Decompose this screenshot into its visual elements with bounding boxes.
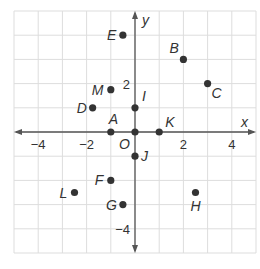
point-marker <box>119 32 126 39</box>
point-marker <box>107 128 114 135</box>
x-axis-arrow-left-icon <box>14 129 22 135</box>
point-label: B <box>169 40 178 56</box>
point-marker <box>131 104 138 111</box>
point-marker <box>156 128 163 135</box>
point-label: F <box>95 172 105 188</box>
point-l: L <box>60 185 79 201</box>
point-marker <box>204 80 211 87</box>
point-marker <box>71 189 78 196</box>
point-marker <box>192 189 199 196</box>
point-g: G <box>106 197 127 213</box>
point-marker <box>180 56 187 63</box>
x-tick-label: −2 <box>79 137 94 152</box>
y-tick-label: 2 <box>123 77 130 92</box>
y-tick-label: −4 <box>115 222 130 237</box>
point-label: K <box>165 114 175 130</box>
point-label: L <box>60 185 68 201</box>
x-tick-label: 4 <box>228 137 235 152</box>
point-j: J <box>131 148 149 164</box>
point-c: C <box>204 80 223 101</box>
point-o <box>131 128 138 135</box>
point-label: D <box>77 100 87 116</box>
point-marker <box>107 177 114 184</box>
point-label: A <box>108 111 118 127</box>
point-marker <box>119 201 126 208</box>
coordinate-plane: x y O −4−2242−4 ABCDEFGHIJKLM <box>0 0 260 269</box>
y-axis-arrow-up-icon <box>132 11 138 19</box>
x-axis-arrow-right-icon <box>248 129 256 135</box>
point-d: D <box>77 100 97 116</box>
point-marker <box>89 104 96 111</box>
y-axis-arrow-down-icon <box>132 245 138 253</box>
points: ABCDEFGHIJKLM <box>60 27 223 213</box>
point-h: H <box>191 189 202 214</box>
point-label: E <box>107 27 117 43</box>
point-marker <box>131 153 138 160</box>
point-label: M <box>92 82 104 98</box>
point-label: H <box>191 198 202 214</box>
x-tick-label: 2 <box>180 137 187 152</box>
point-marker <box>131 128 138 135</box>
y-axis-label: y <box>141 12 150 28</box>
point-label: C <box>212 85 223 101</box>
origin-label: O <box>119 136 130 152</box>
point-label: I <box>142 88 146 104</box>
point-marker <box>107 86 114 93</box>
point-label: G <box>106 197 117 213</box>
x-axis-label: x <box>240 114 249 130</box>
x-tick-label: −4 <box>31 137 46 152</box>
point-label: J <box>140 148 149 164</box>
